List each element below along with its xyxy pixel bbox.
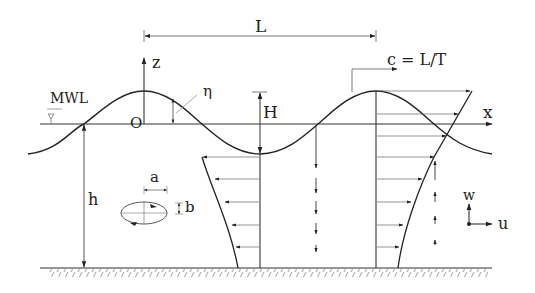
eta-label: η xyxy=(203,84,212,99)
legend-w-label: w xyxy=(463,188,475,202)
wave-height-label: H xyxy=(263,104,278,121)
seabed xyxy=(40,268,492,277)
x-axis-label: x xyxy=(483,104,493,121)
mwl-label: MWL xyxy=(50,91,88,105)
water-depth-label: h xyxy=(88,192,98,208)
mwl-symbol xyxy=(47,109,62,124)
trough-velocity-profile xyxy=(202,154,260,268)
crest-velocity-profile xyxy=(376,91,472,268)
ellipse-b-label: b xyxy=(185,200,195,215)
origin-label: O xyxy=(130,116,142,131)
orbital-ellipse xyxy=(121,186,183,226)
celerity-label: c = L/T xyxy=(387,52,446,68)
wave-diagram xyxy=(0,0,535,293)
legend-u-label: u xyxy=(498,216,508,232)
velocity-legend xyxy=(467,204,492,226)
celerity-arrow xyxy=(352,69,397,92)
ellipse-a-label: a xyxy=(150,170,159,185)
wavelength-label: L xyxy=(255,18,266,35)
z-axis-label: z xyxy=(152,55,160,71)
